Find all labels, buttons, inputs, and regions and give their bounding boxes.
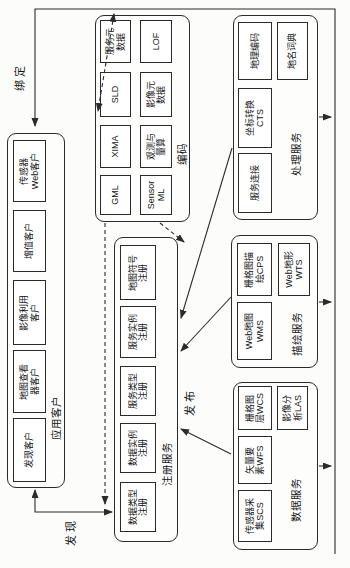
box-sensorml: Sensor ML [140, 175, 172, 215]
box-xima: XIMA [100, 125, 131, 168]
box-map-symbol-registry: 地图符号 注册 [120, 245, 156, 300]
box-wms: Web地图 WMS [237, 302, 272, 360]
box-wcs: 栅格图 层WCS [238, 386, 272, 430]
box-gml: GML [100, 175, 131, 215]
box-service-metadata: 服务元 数据 [100, 20, 131, 63]
box-service-type-registry: 服务类型 注册 [120, 366, 156, 416]
box-scs: 传感器采 集SCS [238, 490, 272, 542]
label-find: 发现 [62, 518, 78, 546]
box-wfs: 矢量要 素WFS [238, 436, 272, 484]
label-bind: 绑定 [11, 63, 27, 91]
box-value-added-client: 增值客户 [13, 210, 46, 272]
rotated-diagram-page: 发现客户 地图查看 器客户 影像利用 客户 增值客户 传感器 Web客户 应用客… [0, 0, 350, 568]
group-label-processing-services: 处理服务 [288, 124, 303, 184]
box-image-metadata: 影像元 数据 [140, 72, 172, 117]
group-label-encodings: 编码 [174, 138, 189, 170]
box-data-type-registry: 数据类型 注册 [120, 482, 156, 532]
box-image-exploitation-client: 影像利用 客户 [13, 280, 46, 345]
box-cts: 坐标转换 CTS [238, 88, 272, 148]
group-label-registry-services: 注册服务 [159, 436, 174, 492]
group-label-portrayal-services: 描绘服务 [289, 304, 304, 364]
box-service-instance-registry: 服务实例 注册 [120, 306, 156, 358]
box-sensor-web-client: 传感器 Web客户 [13, 140, 46, 202]
box-discovery-client: 发现客户 [13, 418, 46, 482]
box-geocoder: 地理编码 [238, 22, 272, 80]
label-publish: 发布 [181, 388, 197, 416]
box-las: 影像分 析LAS [277, 386, 308, 430]
box-cps: 栅格图描 绘CPS [237, 243, 272, 296]
find-connector [35, 490, 112, 512]
group-label-application-clients: 应用客户 [48, 390, 63, 446]
box-gazetteer: 地名词典 [277, 22, 308, 80]
box-lof: LOF [140, 20, 172, 63]
group-label-data-services: 数据服务 [288, 470, 303, 530]
publish-from-portrayal [181, 297, 231, 351]
box-map-viewer-client: 地图查看 器客户 [13, 350, 46, 413]
box-service-chaining: 服务连接 [238, 153, 272, 213]
box-data-instance-registry: 数据实例 注册 [120, 423, 156, 473]
publish-from-data [181, 429, 231, 454]
box-observation-measurement: 观测与 量算 [140, 125, 172, 168]
box-wts: Web地形 WTS [278, 243, 310, 296]
architecture-diagram: 发现客户 地图查看 器客户 影像利用 客户 增值客户 传感器 Web客户 应用客… [0, 0, 350, 568]
box-sld: SLD [100, 72, 131, 117]
